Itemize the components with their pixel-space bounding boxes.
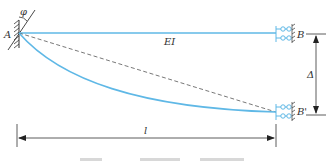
figure-caption-illegible: [80, 158, 260, 164]
stiffness-label: EI: [163, 36, 176, 47]
beam-diagram: φ A EI B: [0, 0, 329, 164]
length-label: l: [144, 125, 147, 136]
roller-support-B-prime: [276, 104, 291, 120]
chord-line: [19, 33, 276, 112]
label-B-prime: B': [296, 106, 307, 117]
label-A: A: [3, 29, 11, 40]
label-B: B: [296, 29, 304, 40]
angle-label: φ: [20, 6, 27, 17]
roller-support-B: [276, 26, 291, 42]
displacement-label: Δ: [306, 69, 314, 80]
